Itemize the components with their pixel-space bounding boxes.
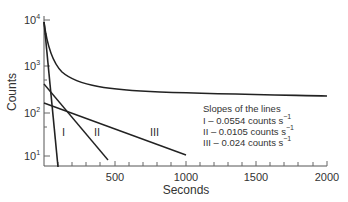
- line-label-iii: III: [150, 126, 159, 138]
- legend: Slopes of the lines I – 0.0554 counts s−…: [203, 103, 294, 148]
- svg-text:1500: 1500: [244, 171, 268, 183]
- svg-text:500: 500: [106, 171, 124, 183]
- x-axis-title: Seconds: [163, 183, 210, 197]
- svg-text:I – 0.0554 counts s−1: I – 0.0554 counts s−1: [203, 113, 291, 126]
- svg-text:104: 104: [24, 13, 40, 26]
- svg-text:1000: 1000: [174, 171, 198, 183]
- svg-text:102: 102: [24, 106, 40, 119]
- y-tick-labels: 104 103 102 101: [24, 13, 40, 162]
- svg-text:101: 101: [24, 149, 40, 162]
- total-counts-curve: [44, 22, 327, 96]
- decay-chart: 104 103 102 101 500 1000 1500 2000 Secon…: [0, 0, 348, 202]
- svg-text:Slopes of the lines: Slopes of the lines: [203, 103, 281, 114]
- line-label-ii: II: [94, 126, 100, 138]
- y-axis-title: Counts: [5, 73, 19, 111]
- svg-text:III – 0.024 counts s−1: III – 0.024 counts s−1: [203, 135, 291, 148]
- x-ticks: [58, 161, 327, 166]
- svg-text:103: 103: [24, 59, 40, 72]
- svg-text:2000: 2000: [315, 171, 339, 183]
- line-i: [44, 22, 58, 167]
- x-tick-labels: 500 1000 1500 2000: [106, 171, 339, 183]
- line-label-i: I: [62, 126, 65, 138]
- line-iii: [44, 103, 186, 155]
- svg-text:II – 0.0105 counts s−1: II – 0.0105 counts s−1: [203, 124, 294, 137]
